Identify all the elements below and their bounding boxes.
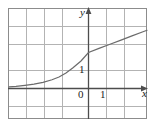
y-axis-label: y — [80, 7, 85, 18]
graph-figure: y x 1 0 1 — [0, 0, 155, 126]
grid-vertical-lines — [27, 8, 125, 119]
origin-label: 0 — [78, 89, 84, 100]
plot-canvas — [0, 0, 155, 126]
data-curve — [9, 30, 147, 87]
x-tick-label-1: 1 — [100, 89, 106, 100]
y-tick-label-1: 1 — [79, 64, 85, 75]
x-axis-label: x — [142, 88, 147, 99]
y-axis — [86, 7, 92, 119]
